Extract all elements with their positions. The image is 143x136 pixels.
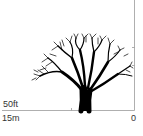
width-scale-label: 15m: [2, 114, 20, 123]
tree-diagram: [0, 0, 143, 136]
tree-silhouette-icon: [32, 34, 133, 111]
origin-label: 0: [131, 114, 136, 123]
height-scale-label: 50ft: [3, 100, 18, 109]
